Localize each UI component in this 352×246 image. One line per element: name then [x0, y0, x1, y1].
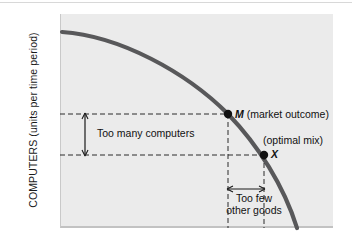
label-too-few-other-goods: Too few other goods [224, 192, 284, 216]
label-point-x-letter: X [271, 148, 278, 160]
label-too-few-line2: other goods [226, 204, 281, 216]
label-market-outcome-text: (market outcome) [247, 108, 329, 120]
data-point-x [260, 151, 268, 159]
data-point-m [224, 110, 232, 118]
ppf-figure: COMPUTERS (units per time period) Too ma… [0, 0, 352, 246]
label-too-few-line1: Too few [236, 192, 272, 204]
label-optimal-mix: (optimal mix) [263, 134, 323, 146]
plot-overlay [0, 0, 352, 246]
label-too-many-computers: Too many computers [97, 127, 194, 139]
label-market-outcome: M (market outcome) [235, 108, 329, 120]
label-point-m-letter: M [235, 108, 244, 120]
